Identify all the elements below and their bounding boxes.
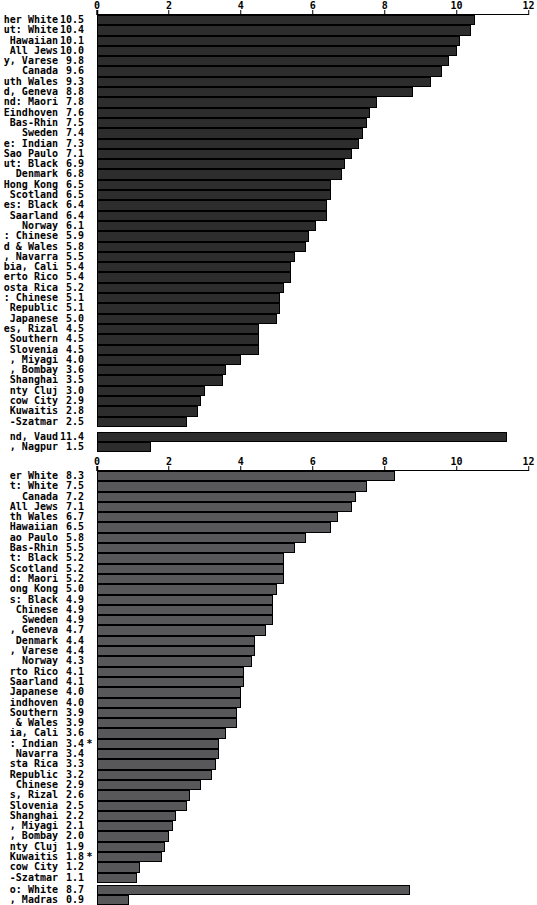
x-tick-label: 2 bbox=[166, 1, 172, 11]
bar bbox=[97, 334, 259, 344]
row-label: , Madras bbox=[0, 895, 58, 905]
row-label: Denmark bbox=[0, 169, 58, 179]
row-label: ut: White bbox=[0, 25, 58, 35]
row-label: , Geneva bbox=[0, 625, 58, 635]
bar bbox=[97, 200, 327, 210]
bar bbox=[97, 242, 306, 252]
row-label: er White bbox=[0, 471, 58, 481]
bar bbox=[97, 252, 295, 262]
bar bbox=[97, 221, 316, 231]
bar bbox=[97, 180, 331, 190]
bar bbox=[97, 895, 129, 905]
x-tick-label: 6 bbox=[310, 1, 316, 11]
row-label: nd: Maori bbox=[0, 97, 58, 107]
bar-row: , Nagpur1.5 bbox=[0, 442, 537, 452]
row-label: Saarland bbox=[0, 211, 58, 221]
bar bbox=[97, 396, 201, 406]
bar bbox=[97, 139, 359, 149]
bar bbox=[97, 801, 187, 811]
bar bbox=[97, 15, 475, 25]
bar bbox=[97, 770, 212, 780]
x-axis: 024681012 bbox=[97, 0, 529, 15]
row-label: ong Kong bbox=[0, 584, 58, 594]
row-label-group: -Szatmar1.1 bbox=[0, 873, 95, 883]
bar bbox=[97, 574, 284, 584]
row-label: , Bombay bbox=[0, 831, 58, 841]
row-label: y, Varese bbox=[0, 56, 58, 66]
bar-row: s, Rizal2.6 bbox=[0, 790, 537, 800]
x-tick-label: 12 bbox=[522, 457, 534, 467]
row-label: Shanghai bbox=[0, 375, 58, 385]
bar bbox=[97, 512, 338, 522]
bar bbox=[97, 553, 284, 563]
row-label: Sweden bbox=[0, 615, 58, 625]
bar bbox=[97, 77, 431, 87]
bar bbox=[97, 355, 241, 365]
row-label: Republic bbox=[0, 770, 58, 780]
row-value: 1.5 bbox=[58, 442, 84, 452]
bar bbox=[97, 149, 352, 159]
bar bbox=[97, 314, 277, 324]
bar bbox=[97, 442, 151, 452]
row-label: nty Cluj bbox=[0, 386, 58, 396]
row-value: 2.6 bbox=[58, 790, 84, 800]
bar bbox=[97, 365, 226, 375]
row-label: cow City bbox=[0, 396, 58, 406]
x-tick-label: 0 bbox=[94, 1, 100, 11]
row-label: , Miyagi bbox=[0, 355, 58, 365]
row-label: erto Rico bbox=[0, 272, 58, 282]
bar-row: -Szatmar1.1 bbox=[0, 873, 537, 883]
bar bbox=[97, 790, 190, 800]
bar bbox=[97, 386, 205, 396]
bar bbox=[97, 46, 457, 56]
row-label: cow City bbox=[0, 862, 58, 872]
bar bbox=[97, 97, 377, 107]
row-label: nd, Vaud bbox=[0, 432, 58, 442]
bar bbox=[97, 605, 273, 615]
bar-row: Japanese4.0 bbox=[0, 687, 537, 697]
bar bbox=[97, 345, 259, 355]
bar bbox=[97, 66, 442, 76]
row-label: nty Cluj bbox=[0, 842, 58, 852]
bar-row: : Chinese5.9 bbox=[0, 231, 537, 241]
bar bbox=[97, 159, 345, 169]
row-value: 2.5 bbox=[58, 417, 84, 427]
row-label-group: Japanese4.0 bbox=[0, 687, 95, 697]
bar bbox=[97, 842, 165, 852]
row-label: es: Black bbox=[0, 200, 58, 210]
bar bbox=[97, 481, 367, 491]
bar bbox=[97, 852, 162, 862]
row-label: Southern bbox=[0, 708, 58, 718]
x-axis: 024681012 bbox=[97, 456, 529, 471]
row-label: : Indian bbox=[0, 739, 58, 749]
row-label: , Bombay bbox=[0, 365, 58, 375]
bar bbox=[97, 417, 187, 427]
x-tick-label: 4 bbox=[238, 1, 244, 11]
row-label: Hawaiian bbox=[0, 522, 58, 532]
row-label: d & Wales bbox=[0, 242, 58, 252]
row-label: Eindhoven bbox=[0, 108, 58, 118]
bar bbox=[97, 625, 266, 635]
bar bbox=[97, 283, 284, 293]
bar bbox=[97, 667, 244, 677]
bar bbox=[97, 169, 342, 179]
row-label: t: White bbox=[0, 481, 58, 491]
row-label: uth Wales bbox=[0, 77, 58, 87]
row-label: Bas-Rhin bbox=[0, 118, 58, 128]
bar bbox=[97, 432, 507, 442]
bar bbox=[97, 87, 413, 97]
row-label: Chinese bbox=[0, 780, 58, 790]
row-label: : Chinese bbox=[0, 231, 58, 241]
row-label: Kuwaitis bbox=[0, 406, 58, 416]
row-label: t: Black bbox=[0, 553, 58, 563]
chart-rows: her White10.5ut: White10.4Hawaiian10.1Al… bbox=[0, 15, 537, 452]
row-label: Sweden bbox=[0, 128, 58, 138]
row-label: Scotland bbox=[0, 190, 58, 200]
bar bbox=[97, 533, 306, 543]
row-label: & Wales bbox=[0, 718, 58, 728]
bar-row: -Szatmar2.5 bbox=[0, 417, 537, 427]
bar bbox=[97, 471, 395, 481]
row-label: Hong Kong bbox=[0, 180, 58, 190]
bar bbox=[97, 190, 331, 200]
bar bbox=[97, 502, 352, 512]
